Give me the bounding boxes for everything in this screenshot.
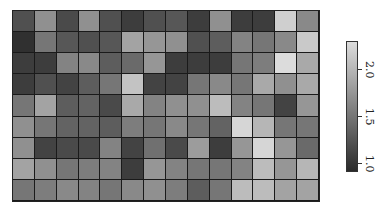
heatmap-cell [253, 53, 275, 74]
heatmap-cell [57, 180, 79, 201]
heatmap-cell [253, 74, 275, 95]
heatmap-cell [35, 159, 57, 180]
heatmap-cell [275, 159, 297, 180]
heatmap-cell [275, 53, 297, 74]
heatmap-cell [275, 11, 297, 32]
heatmap-cell [188, 74, 210, 95]
heatmap-cell [144, 74, 166, 95]
heatmap-cell [253, 180, 275, 201]
heatmap-cell [275, 95, 297, 116]
heatmap-cell [122, 53, 144, 74]
heatmap-cell [297, 180, 319, 201]
heatmap-cell [166, 117, 188, 138]
heatmap-cell [210, 159, 232, 180]
heatmap-cell [232, 180, 254, 201]
heatmap-cell [79, 117, 101, 138]
heatmap-cell [166, 74, 188, 95]
heatmap-cell [13, 159, 35, 180]
heatmap-cell [144, 32, 166, 53]
heatmap-cell [79, 32, 101, 53]
heatmap-cell [144, 95, 166, 116]
heatmap-cell [35, 138, 57, 159]
heatmap-cell [100, 32, 122, 53]
heatmap-cell [13, 74, 35, 95]
heatmap-cell [232, 53, 254, 74]
heatmap-cell [188, 11, 210, 32]
heatmap-cell [232, 117, 254, 138]
heatmap-cell [297, 74, 319, 95]
heatmap-cell [253, 11, 275, 32]
heatmap-cell [232, 74, 254, 95]
heatmap-cell [232, 159, 254, 180]
heatmap-cell [79, 74, 101, 95]
heatmap-cell [122, 74, 144, 95]
heatmap-cell [144, 53, 166, 74]
heatmap-cell [79, 11, 101, 32]
heatmap-cell [232, 138, 254, 159]
heatmap-cell [57, 74, 79, 95]
heatmap-cell [35, 117, 57, 138]
heatmap-cell [100, 11, 122, 32]
colorbar-tick-label: 1.0 [363, 155, 376, 173]
heatmap-cell [57, 32, 79, 53]
heatmap-cell [144, 180, 166, 201]
heatmap-cell [13, 95, 35, 116]
heatmap-cell [57, 159, 79, 180]
heatmap-cell [188, 53, 210, 74]
heatmap-cell [79, 95, 101, 116]
heatmap-cell [166, 53, 188, 74]
heatmap-cell [57, 117, 79, 138]
heatmap-cell [275, 117, 297, 138]
heatmap-cell [35, 180, 57, 201]
heatmap-cell [166, 159, 188, 180]
heatmap-cell [297, 32, 319, 53]
heatmap-cell [232, 95, 254, 116]
colorbar-tick [358, 116, 362, 117]
heatmap-cell [13, 11, 35, 32]
heatmap-cell [210, 74, 232, 95]
colorbar-tick [358, 69, 362, 70]
heatmap-cell [122, 159, 144, 180]
heatmap-cell [57, 138, 79, 159]
heatmap-cell [166, 32, 188, 53]
heatmap-cell [188, 180, 210, 201]
heatmap-cell [13, 53, 35, 74]
heatmap-cell [100, 74, 122, 95]
heatmap-cell [122, 95, 144, 116]
heatmap-cell [35, 32, 57, 53]
heatmap-cell [122, 11, 144, 32]
heatmap-cell [253, 138, 275, 159]
heatmap-cell [297, 117, 319, 138]
colorbar-tick-label: 1.5 [363, 108, 376, 126]
heatmap-cell [166, 11, 188, 32]
heatmap-cell [166, 180, 188, 201]
heatmap-cell [144, 159, 166, 180]
heatmap-cell [253, 32, 275, 53]
heatmap-cell [35, 53, 57, 74]
heatmap-cell [122, 117, 144, 138]
heatmap-cell [188, 138, 210, 159]
heatmap-cell [188, 117, 210, 138]
heatmap-cell [275, 180, 297, 201]
heatmap-cell [210, 53, 232, 74]
heatmap-cell [210, 11, 232, 32]
heatmap-cell [35, 11, 57, 32]
heatmap-cell [253, 117, 275, 138]
heatmap-cell [79, 159, 101, 180]
heatmap-cell [57, 95, 79, 116]
heatmap-cell [13, 32, 35, 53]
heatmap-cell [297, 138, 319, 159]
heatmap-grid [12, 10, 320, 202]
heatmap-cell [166, 95, 188, 116]
heatmap-cell [13, 138, 35, 159]
heatmap-cell [210, 32, 232, 53]
heatmap-cell [100, 138, 122, 159]
heatmap-cell [13, 180, 35, 201]
heatmap-cell [166, 138, 188, 159]
heatmap-cell [57, 53, 79, 74]
heatmap-cell [188, 159, 210, 180]
heatmap-cell [297, 159, 319, 180]
heatmap-cell [210, 180, 232, 201]
heatmap-cell [79, 180, 101, 201]
heatmap-cell [100, 53, 122, 74]
